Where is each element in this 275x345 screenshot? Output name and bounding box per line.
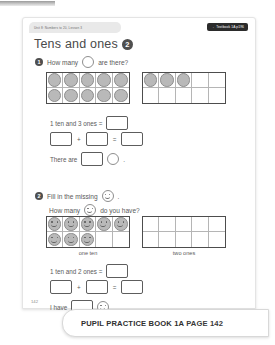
question-1-line-2: + = [50,132,143,146]
question-2-prompt-before: Fill in the missing [47,193,98,200]
frame-cell [159,88,175,103]
smiley-face-icon [84,204,96,216]
answer-box-q2-addend-1[interactable] [50,280,72,294]
frame-cell [176,232,192,247]
unit-lesson-tab: Unit 8: Numbers to 20, Lesson 3 [29,22,121,33]
counter-disc-icon [64,73,78,87]
ten-frame-empty [142,216,226,248]
equals-sign: = [112,136,118,143]
question-2-subprompt: How many do you have? [49,204,140,216]
page-number: 142 [31,299,38,304]
counter-disc-icon [144,73,158,87]
question-2-subprompt-after: do you have? [100,207,140,214]
frame-cell [113,73,129,88]
answer-box-q1-sum[interactable] [121,132,143,146]
frame-label-one-ten: one ten [46,250,130,256]
frame-cell [80,73,96,88]
question-2-prompt: 2 Fill in the missing . [35,190,119,202]
footer-page-label: PAGE 142 [186,319,223,328]
question-2-line-1-text: 1 ten and 2 ones = [50,268,102,275]
page-title-text: Tens and ones [34,37,118,51]
frame-cell [63,88,79,103]
question-2-subprompt-before: How many [49,207,80,214]
counter-disc-icon [81,89,95,103]
frame-cell [159,73,175,88]
counter-disc-icon [81,73,95,87]
smiley-counter-icon [64,217,78,231]
ten-frame-full [46,72,130,104]
equals-sign: = [112,284,118,291]
question-2-line-2: + = [50,280,143,294]
window-edge-strip [0,1,55,6]
question-1-ten-frames [46,72,226,104]
frame-cell [209,232,225,247]
frame-cell [159,232,175,247]
frame-cell [143,73,159,88]
ten-frame-ones [142,72,226,104]
answer-box-q2-addend-2[interactable] [86,280,108,294]
footer-book-label: PUPIL PRACTICE BOOK 1A [81,319,184,328]
ten-frame-faces [46,216,130,248]
frame-cell [192,217,208,232]
question-1-prompt-after: are there? [98,59,128,66]
frame-cell-empty [113,232,129,247]
frame-cell [143,232,159,247]
counter-disc-icon [48,89,62,103]
counter-disc-icon [97,73,111,87]
question-2-frame-labels: one ten two ones [46,250,226,256]
page-title: Tens and ones 2 [34,37,133,51]
frame-cell [209,73,225,88]
question-2-line-1: 1 ten and 2 ones = [50,264,128,278]
counter-disc-icon [97,89,111,103]
footer-banner: PUPIL PRACTICE BOOK 1A PAGE 142 [62,309,269,337]
frame-cell [80,88,96,103]
frame-cell [47,73,63,88]
answer-box-q1-there-are[interactable] [81,152,103,166]
smiley-counter-icon [114,217,128,231]
plus-sign: + [76,284,82,291]
footer-text: PUPIL PRACTICE BOOK 1A PAGE 142 [63,319,223,328]
frame-cell [63,73,79,88]
frame-cell [63,217,79,232]
frame-cell [96,217,112,232]
frame-cell [176,88,192,103]
textbook-reference-label: Textbook 1A p196 [216,25,244,29]
textbook-reference-badge[interactable]: → Textbook 1A p196 [207,23,248,31]
frame-cell [159,217,175,232]
question-1-number: 1 [35,58,43,66]
counter-disc-icon [177,73,191,87]
counter-disc-icon [160,73,174,87]
counter-disc-icon [114,73,128,87]
question-1-line-1: 1 ten and 3 ones = [50,116,128,130]
frame-cell [209,217,225,232]
answer-box-q1-total[interactable] [106,116,128,130]
frame-label-two-ones: two ones [142,250,226,256]
question-1-prompt: 1 How many are there? [35,56,128,68]
frame-cell [113,217,129,232]
unit-lesson-label: Unit 8: Numbers to 20, Lesson 3 [29,26,82,30]
answer-box-q1-addend-1[interactable] [50,132,72,146]
question-1-prompt-before: How many [47,59,78,66]
answer-box-q2-sum[interactable] [121,280,143,294]
frame-cell [176,73,192,88]
counter-disc-icon [114,89,128,103]
frame-cell [96,73,112,88]
frame-cell [80,217,96,232]
frame-cell [47,88,63,103]
circle-counter-icon [82,56,94,68]
question-2-line-3-before: I have [50,304,67,311]
frame-cell [192,232,208,247]
frame-cell-empty [96,232,112,247]
arrow-right-icon: → [211,25,214,29]
question-2-ten-frames [46,216,226,248]
frame-cell [80,232,96,247]
smiley-counter-icon [64,233,78,247]
plus-sign: + [76,136,82,143]
smiley-counter-icon [48,233,62,247]
answer-box-q1-addend-2[interactable] [86,132,108,146]
answer-box-q2-total[interactable] [106,264,128,278]
frame-cell [176,217,192,232]
counter-disc-icon [64,89,78,103]
worksheet-page: Unit 8: Numbers to 20, Lesson 3 → Textbo… [22,17,256,309]
frame-cell [63,232,79,247]
